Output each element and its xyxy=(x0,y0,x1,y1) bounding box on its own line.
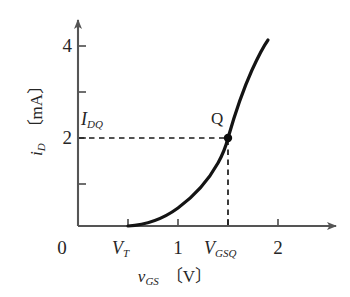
q-point-label: Q xyxy=(211,110,223,127)
x-tick-label-1: 1 xyxy=(171,238,185,257)
x-tick-label-vgsq: VGSQ xyxy=(204,239,236,257)
y-axis-title: iD〔mA〕 xyxy=(28,37,45,197)
y-axis-unit: 〔mA〕 xyxy=(27,77,46,137)
y-axis-title-wrap: iD〔mA〕 xyxy=(0,0,60,240)
y-axis-subscript: D xyxy=(35,143,47,151)
x-axis-subscript: GS xyxy=(145,275,158,287)
x-tick-label-2: 2 xyxy=(271,238,285,257)
vgsq-subscript: GSQ xyxy=(215,247,236,259)
curve-path xyxy=(128,40,268,226)
vt-symbol: V xyxy=(112,238,123,258)
vt-subscript: T xyxy=(123,247,129,259)
x-tick-label-vt: VT xyxy=(112,239,129,257)
figure-container: 4 2 0 1 2 VT VGSQ IDQ Q vGS〔V〕 iD〔mA〕 xyxy=(0,0,350,297)
vgsq-symbol: V xyxy=(204,238,215,258)
y-axis-symbol: i xyxy=(27,151,46,156)
x-axis-title: vGS〔V〕 xyxy=(0,268,350,285)
y-tick-label-4: 4 xyxy=(58,36,72,55)
idq-label: IDQ xyxy=(81,110,103,128)
q-point-marker xyxy=(224,134,232,142)
idq-subscript: DQ xyxy=(87,118,103,130)
x-axis-unit: 〔V〕 xyxy=(166,267,212,286)
y-tick-label-2: 2 xyxy=(58,128,72,147)
x-tick-label-0: 0 xyxy=(55,238,69,257)
